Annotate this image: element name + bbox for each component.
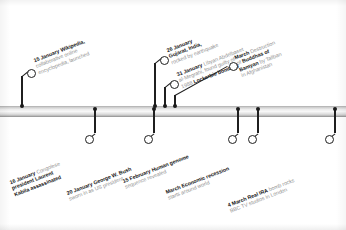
timeline-dot — [20, 104, 24, 108]
timeline-dot — [152, 107, 156, 111]
timeline-dot — [93, 107, 97, 111]
marker-stem — [94, 110, 95, 133]
marker-ring — [248, 135, 257, 144]
marker-stem — [21, 76, 22, 106]
marker-ring — [228, 135, 237, 144]
timeline-dot — [236, 107, 240, 111]
marker-stem — [334, 110, 335, 133]
marker-stem — [153, 110, 154, 133]
timeline-dot — [173, 104, 177, 108]
marker-ring — [229, 62, 238, 71]
marker-stem — [257, 110, 258, 133]
marker-stem — [237, 110, 238, 133]
marker-ring — [160, 56, 169, 65]
marker-ring — [325, 135, 334, 144]
marker-ring — [85, 135, 94, 144]
timeline-dot — [333, 107, 337, 111]
timeline-dot — [256, 107, 260, 111]
marker-ring — [144, 135, 153, 144]
marker-stem — [154, 63, 155, 106]
timeline-dot — [163, 104, 167, 108]
marker-ring — [170, 80, 179, 89]
marker-ring — [27, 69, 36, 78]
